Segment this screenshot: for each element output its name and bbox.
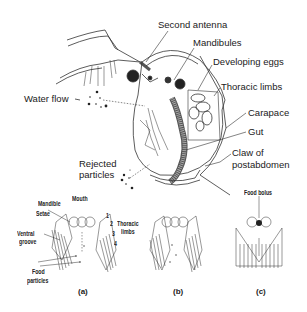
label-thoracic-limbs: Thoracic limbs	[221, 82, 282, 92]
label-ventral-line2: groove	[19, 238, 36, 245]
label-developing-eggs: Developing eggs	[213, 57, 284, 67]
label-water-flow: Water flow	[24, 94, 69, 104]
label-food-line1: Food	[32, 268, 45, 275]
label-thoracic-limbs-a-line2: limbs	[121, 228, 135, 235]
label-ventral-line1: Ventral	[17, 230, 34, 237]
limb-number-3: 3	[112, 230, 115, 237]
label-mouth: Mouth	[72, 195, 88, 202]
label-mandible: Mandible	[38, 200, 61, 207]
label-mandibules: Mandibules	[193, 38, 242, 48]
label-second-antenna: Second antenna	[158, 20, 227, 30]
caption-c: (c)	[256, 287, 266, 296]
caption-a: (a)	[78, 287, 88, 296]
label-claw-line2: postabdomen	[232, 160, 290, 170]
label-carapace: Carapace	[248, 108, 289, 118]
label-thoracic-limbs-a-line1: Thoracic	[117, 220, 139, 227]
label-claw-line1: Claw of	[232, 148, 264, 158]
limb-number-1: 1	[106, 212, 109, 219]
limb-number-2: 2	[110, 220, 113, 227]
label-food-bolus: Food bolus	[244, 189, 272, 196]
label-rejected-line2: particles	[79, 170, 114, 180]
label-setae: Setae	[36, 210, 50, 217]
limb-number-4: 4	[114, 240, 117, 247]
label-food-particles-line2: particles	[27, 277, 48, 284]
caption-b: (b)	[173, 287, 183, 296]
label-gut: Gut	[248, 127, 263, 137]
label-rejected-line1: Rejected	[79, 159, 117, 169]
